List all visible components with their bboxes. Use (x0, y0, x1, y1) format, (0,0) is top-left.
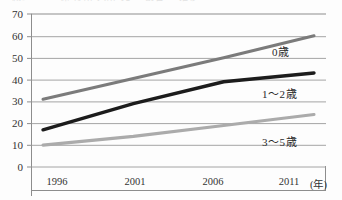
y-tick-label-10: 10 (1, 139, 23, 151)
y-tick-marks (27, 14, 32, 167)
x-tick-label-2011: 2011 (267, 176, 311, 187)
series-line-1-2-years (43, 73, 314, 130)
x-tick-label-2001: 2001 (113, 176, 157, 187)
y-tick-label-60: 60 (1, 30, 23, 42)
y-tick-label-40: 40 (1, 74, 23, 86)
y-tick-label-30: 30 (1, 95, 23, 107)
y-tick-label-20: 20 (1, 117, 23, 129)
x-tick-label-1996: 1996 (35, 176, 79, 187)
x-tick-label-2006: 2006 (191, 176, 235, 187)
series-label-1-2-years: 1～2歳 (262, 85, 297, 101)
x-axis-unit-label: (年) (310, 176, 327, 191)
y-tick-label-70: 70 (1, 8, 23, 20)
series-label-3-5-years: 3～5歳 (262, 133, 297, 149)
y-tick-label-0: 0 (1, 161, 23, 173)
line-chart-figure: 減少 保 育所 入所 児 割合 推移 (0, 0, 342, 200)
y-tick-label-50: 50 (1, 52, 23, 64)
series-label-0-years: 0歳 (272, 43, 290, 59)
